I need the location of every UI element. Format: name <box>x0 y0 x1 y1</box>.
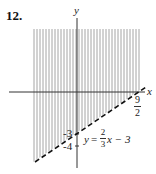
x-axis-label: x <box>147 85 152 97</box>
equation-label: y = 2 3 x − 3 <box>84 128 130 149</box>
y-axis-label: y <box>74 4 79 16</box>
x-intercept-numerator: 9 <box>135 95 140 105</box>
eq-sign: = <box>91 133 97 145</box>
x-intercept-label: 9 2 <box>134 95 141 118</box>
eq-fraction: 2 3 <box>100 128 106 149</box>
eq-lhs: y <box>84 133 89 145</box>
eq-den: 3 <box>101 140 106 149</box>
x-intercept-denominator: 2 <box>135 108 140 118</box>
eq-num: 2 <box>101 128 106 137</box>
graph <box>0 0 156 174</box>
tick-neg4-label: -4 <box>63 140 72 152</box>
eq-rhs: x − 3 <box>107 133 130 145</box>
y-intercept-label: -3 <box>63 127 72 139</box>
